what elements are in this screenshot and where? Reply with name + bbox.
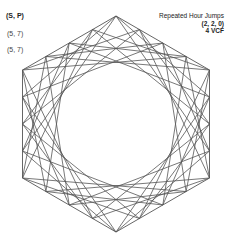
hexagon-string-art	[0, 0, 232, 243]
